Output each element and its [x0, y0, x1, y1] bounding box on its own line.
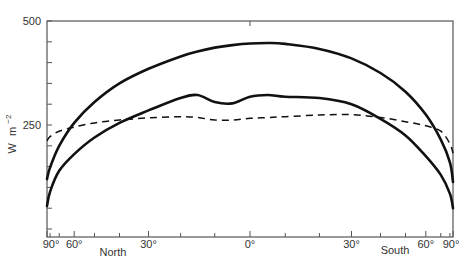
- x-tick-label: 60°: [66, 238, 83, 250]
- north-label: North: [100, 246, 127, 258]
- radiation-latitude-chart: 500 250 W m −2 90°60°30°0°30°60°90° Nort…: [0, 0, 466, 261]
- plot-curves: [47, 43, 453, 208]
- lower-solid-curve: [47, 95, 453, 208]
- y-axis-unit-w: W: [6, 142, 18, 153]
- south-label: South: [381, 244, 410, 256]
- dashed-curve: [47, 114, 453, 153]
- x-tick-label: 0°: [245, 238, 256, 250]
- x-tick-label: 60°: [417, 238, 434, 250]
- x-tick-label: 90°: [43, 238, 60, 250]
- y-axis-unit-m: m: [6, 127, 18, 136]
- svg-text:W m −2: W m −2: [4, 114, 18, 153]
- upper-solid-curve: [47, 43, 453, 182]
- x-tick-label: 30°: [343, 238, 360, 250]
- y-tick-label-250: 250: [23, 119, 41, 131]
- y-axis-label: W m −2: [4, 114, 18, 153]
- x-tick-label: 30°: [140, 238, 157, 250]
- x-tick-label: 90°: [443, 238, 460, 250]
- y-axis-unit-exp: −2: [4, 114, 13, 124]
- y-tick-label-500: 500: [23, 15, 41, 27]
